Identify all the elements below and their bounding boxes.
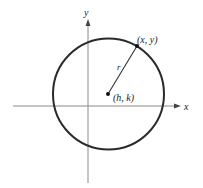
radius-label: r [117, 62, 121, 72]
x-axis-label: x [183, 101, 189, 112]
point-label: (x, y) [137, 34, 158, 46]
circle-diagram: y x (x, y) (h, k) r [0, 0, 203, 188]
center-point [106, 92, 110, 96]
center-label: (h, k) [113, 92, 135, 104]
radius-line [108, 46, 137, 94]
y-axis-arrow-icon [86, 19, 91, 26]
x-axis-arrow-icon [174, 104, 181, 109]
diagram-svg: y x (x, y) (h, k) r [0, 0, 203, 188]
y-axis-label: y [83, 7, 89, 18]
